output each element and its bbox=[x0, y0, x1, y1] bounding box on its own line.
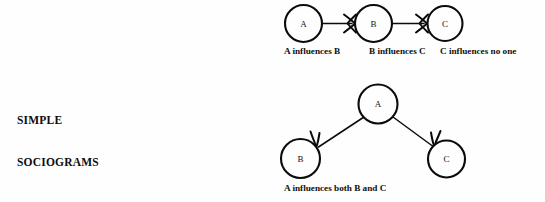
node-bottom-b: B bbox=[281, 139, 320, 178]
caption-c-influences-no-one: C influences no one bbox=[440, 46, 516, 56]
caption-a-influences-b: A influences B bbox=[284, 46, 340, 56]
diagram-bottom: A B C A influences both B and C bbox=[281, 85, 465, 194]
node-top-b-label: B bbox=[370, 19, 376, 29]
caption-a-influences-both: A influences both B and C bbox=[284, 183, 386, 193]
node-bottom-c-label: C bbox=[443, 154, 449, 164]
node-top-c: C bbox=[428, 6, 463, 41]
edge-bottom-a-to-b-line bbox=[319, 117, 365, 147]
diagram-canvas: A B C A influences B B influences C C in… bbox=[0, 0, 545, 202]
node-bottom-a-label: A bbox=[375, 99, 382, 109]
diagram-top: A B C A influences B B influences C C in… bbox=[284, 5, 516, 56]
node-top-a: A bbox=[285, 5, 322, 42]
edge-a-to-b bbox=[322, 15, 356, 33]
edge-bottom-a-to-c-line bbox=[393, 117, 433, 146]
node-top-b: B bbox=[355, 5, 392, 42]
node-bottom-b-label: B bbox=[297, 154, 303, 164]
sociogram-figure: SIMPLE SOCIOGRAMS A bbox=[0, 0, 545, 202]
node-top-a-label: A bbox=[300, 19, 307, 29]
node-bottom-a: A bbox=[359, 85, 398, 124]
caption-b-influences-c: B influences C bbox=[369, 46, 426, 56]
node-bottom-c: C bbox=[428, 141, 465, 178]
node-top-c-label: C bbox=[442, 19, 448, 29]
edge-b-to-c bbox=[392, 15, 428, 33]
